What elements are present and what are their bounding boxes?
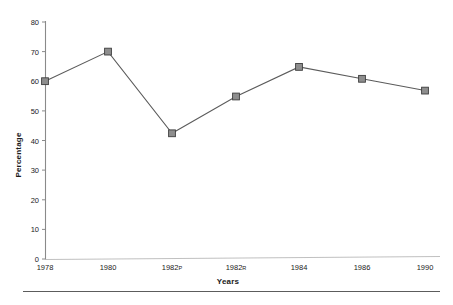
y-tick-label: 60 (31, 77, 39, 86)
x-tick-label-group: 1978 (37, 263, 54, 272)
y-axis-title: Percentage (14, 132, 23, 177)
data-point-marker (42, 78, 49, 85)
x-tick-label-group: 1990 (417, 263, 434, 272)
x-tick-label-main: 1990 (417, 263, 434, 272)
x-tick-label-main: 1980 (100, 263, 117, 272)
y-tick-label: 50 (31, 107, 39, 116)
x-tick-label-suffix: R (242, 265, 246, 271)
chart-figure: 80 70 60 50 40 30 20 10 0 Percentage 197… (0, 0, 453, 305)
y-tick-label: 10 (31, 225, 39, 234)
y-tick-label: 20 (31, 196, 39, 205)
x-tick-label-suffix: P (178, 265, 182, 271)
data-point-marker (359, 75, 366, 82)
y-tick-label: 80 (31, 18, 39, 27)
x-tick-label-main: 1984 (291, 263, 308, 272)
x-tick-label-group: 1982R (226, 263, 247, 272)
data-point-marker (169, 130, 176, 137)
data-point-marker (105, 48, 112, 55)
x-tick-label-group: 1980 (100, 263, 117, 272)
data-point-marker (296, 64, 303, 71)
y-tick-label: 70 (31, 48, 39, 57)
x-tick-label-group: 1982P (162, 263, 183, 272)
x-axis-title: Years (217, 277, 240, 286)
x-tick-label-main: 1986 (354, 263, 371, 272)
y-axis-tick-labels: 80 70 60 50 40 30 20 10 0 (31, 18, 39, 264)
data-point-marker (233, 93, 240, 100)
x-tick-label-group: 1984 (291, 263, 308, 272)
x-tick-label-main: 1982 (226, 263, 243, 272)
x-tick-label-main: 1982 (162, 263, 179, 272)
y-tick-label: 40 (31, 137, 39, 146)
x-tick-label-main: 1978 (37, 263, 54, 272)
line-chart: 80 70 60 50 40 30 20 10 0 Percentage 197… (0, 0, 453, 305)
data-point-marker (422, 87, 429, 94)
x-tick-label-group: 1986 (354, 263, 371, 272)
y-tick-label: 30 (31, 166, 39, 175)
